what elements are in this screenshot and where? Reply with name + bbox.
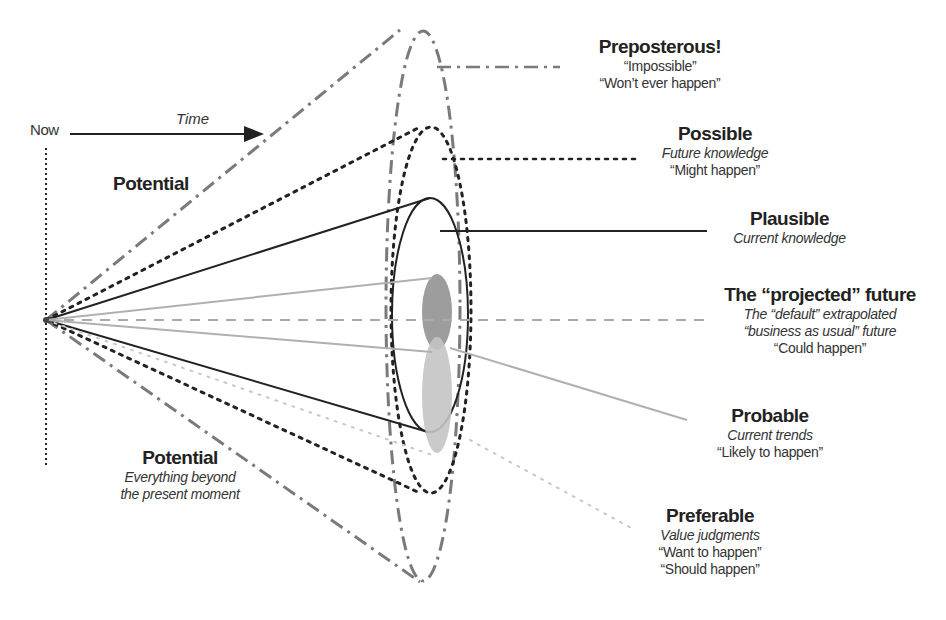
probable-line-1: Current trends: [690, 427, 850, 444]
possible-label: Possible Future knowledge “Might happen”: [640, 123, 790, 179]
time-label: Time: [176, 110, 209, 127]
probable-line-2: “Likely to happen”: [690, 444, 850, 461]
potential-lower-line-2: the present moment: [92, 486, 268, 503]
possible-line-2: “Might happen”: [640, 162, 790, 179]
projected-line-2: “business as usual” future: [700, 323, 940, 340]
plausible-line-1: Current knowledge: [712, 230, 867, 247]
potential-lower-line-1: Everything beyond: [92, 469, 268, 486]
preferable-line-1: Value judgments: [630, 527, 790, 544]
preferable-title: Preferable: [630, 505, 790, 527]
preferable-label: Preferable Value judgments “Want to happ…: [630, 505, 790, 578]
projected-line-1: The “default” extrapolated: [700, 306, 940, 323]
plausible-title: Plausible: [712, 208, 867, 230]
projected-line-3: “Could happen”: [700, 340, 940, 357]
origin-point: [43, 317, 49, 323]
possible-line-1: Future knowledge: [640, 145, 790, 162]
projected-label: The “projected” future The “default” ext…: [700, 284, 940, 357]
probable-label: Probable Current trends “Likely to happe…: [690, 405, 850, 461]
preposterous-title: Preposterous!: [560, 36, 760, 58]
preposterous-line-2: “Won’t ever happen”: [560, 75, 760, 92]
preferable-line-2: “Want to happen”: [630, 544, 790, 561]
preferable-blob: [422, 337, 452, 453]
plausible-label: Plausible Current knowledge: [712, 208, 867, 247]
projected-title: The “projected” future: [700, 284, 940, 306]
potential-lower-title: Potential: [92, 447, 268, 469]
preposterous-line-1: “Impossible”: [560, 58, 760, 75]
probable-title: Probable: [690, 405, 850, 427]
possible-title: Possible: [640, 123, 790, 145]
now-label: Now: [30, 121, 59, 138]
potential-lower-label: Potential Everything beyond the present …: [92, 447, 268, 503]
potential-upper-title: Potential: [113, 173, 189, 195]
preferable-line-3: “Should happen”: [630, 561, 790, 578]
preposterous-label: Preposterous! “Impossible” “Won’t ever h…: [560, 36, 760, 92]
